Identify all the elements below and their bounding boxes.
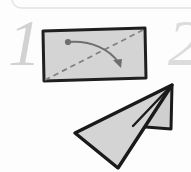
fold-arrow-start-dot	[65, 39, 71, 45]
instruction-figure-canvas: 1 2	[0, 0, 191, 172]
step-number-2: 2	[168, 10, 191, 76]
step-number-1: 1	[8, 10, 41, 76]
